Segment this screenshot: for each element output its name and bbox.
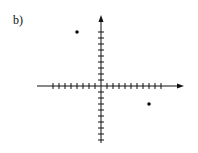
x-axis-arrow-icon xyxy=(177,84,184,89)
data-point xyxy=(75,30,79,34)
y-axis-arrow-icon xyxy=(99,15,104,22)
axes xyxy=(37,15,184,143)
coordinate-plane xyxy=(0,0,198,153)
data-points xyxy=(75,30,151,106)
data-point xyxy=(147,102,151,106)
